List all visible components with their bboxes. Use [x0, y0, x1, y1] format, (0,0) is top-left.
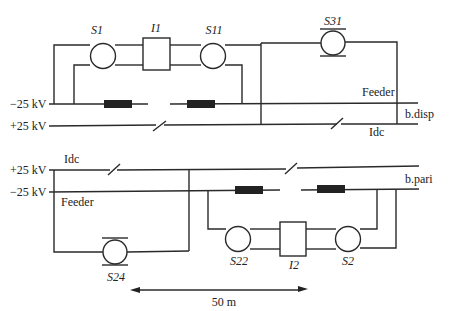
interrupter-i2-label: I2 [288, 258, 299, 272]
resistor-icon [235, 186, 263, 194]
resistor-icon [187, 100, 215, 108]
bus-label: b.pari [405, 172, 433, 186]
scale-bar: 50 m [130, 286, 308, 309]
switch-s24-label: S24 [107, 270, 125, 284]
resistor-icon [104, 100, 132, 108]
break-slash-icon [285, 163, 297, 174]
interrupter-i1-box [143, 38, 170, 70]
electrical-sectioning-diagram: −25 kV +25 kV S1 I1 S11 S31 Feeder b.dis… [0, 0, 450, 311]
arrow-right-icon [298, 286, 308, 292]
idc-label: Idc [64, 152, 79, 166]
switch-s31-label: S31 [324, 14, 342, 28]
idc-label: Idc [369, 125, 384, 139]
loop-inner-left [74, 65, 90, 104]
loop-outer-left [54, 45, 90, 104]
positive-rail-bottom-mid [117, 169, 286, 170]
switch-s1-label: S1 [91, 23, 103, 37]
negative-rail-label: −25 kV [10, 97, 47, 111]
wire [208, 190, 226, 229]
top-section: −25 kV +25 kV S1 I1 S11 S31 Feeder b.dis… [10, 14, 434, 139]
switch-s22-label: S22 [230, 254, 248, 268]
feeder-label: Feeder [61, 195, 94, 209]
interrupter-i2-box [280, 222, 306, 256]
wire [360, 189, 396, 248]
interrupter-i1-label: I1 [150, 21, 161, 35]
switch-s22-icon [226, 227, 251, 252]
switch-s11-icon [201, 44, 226, 69]
positive-rail-label: +25 kV [10, 119, 47, 133]
wire [360, 189, 377, 229]
positive-rail-bottom-right [297, 166, 419, 168]
positive-rail-top-left [49, 125, 156, 126]
switch-s24-icon [103, 240, 127, 264]
negative-rail-label: −25 kV [10, 185, 47, 199]
feeder-label: Feeder [362, 85, 395, 99]
wire [54, 170, 103, 252]
switch-s1-icon [91, 44, 116, 69]
wire [345, 42, 397, 124]
bus-label: b.disp [405, 107, 434, 121]
switch-s31-icon [321, 31, 345, 55]
switch-s2-icon [336, 227, 361, 252]
positive-rail-top-mid [164, 124, 337, 125]
positive-rail-label: +25 kV [10, 163, 47, 177]
break-slash-icon [153, 121, 166, 131]
switch-s2-label: S2 [342, 254, 354, 268]
switch-s11-label: S11 [205, 23, 222, 37]
bottom-section: +25 kV −25 kV Idc Feeder b.pari S24 S22 … [10, 152, 433, 284]
wire [225, 65, 242, 103]
arrow-left-icon [130, 287, 140, 293]
scale-label: 50 m [212, 295, 237, 309]
resistor-icon [317, 185, 345, 193]
wire [127, 251, 189, 252]
